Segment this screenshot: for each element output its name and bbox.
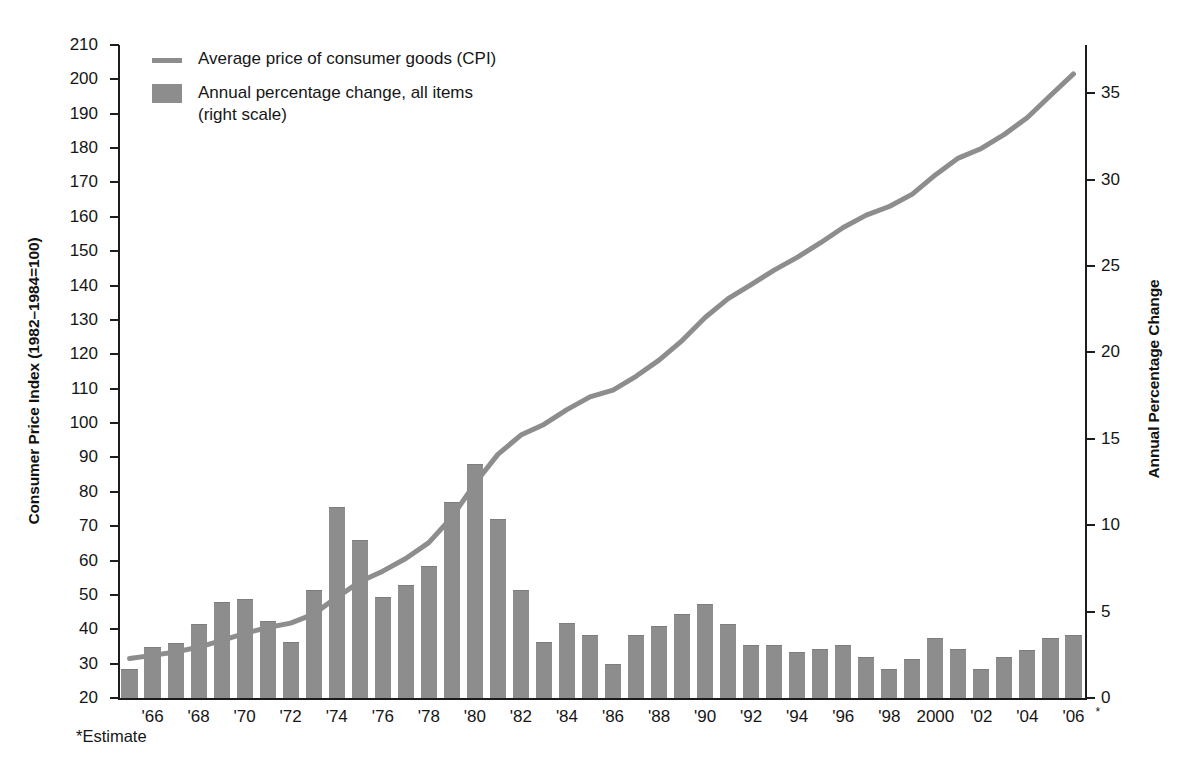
- right-tick-label: 5: [1101, 603, 1161, 620]
- left-tick-label: 60: [34, 552, 98, 569]
- right-tick-mark: [1086, 351, 1095, 353]
- left-tick-label: 50: [34, 586, 98, 603]
- right-tick-label: 0: [1101, 689, 1161, 706]
- right-tick-mark: [1086, 697, 1095, 699]
- left-tick-label: 190: [34, 105, 98, 122]
- right-axis-line: [1085, 45, 1087, 700]
- right-tick-mark: [1086, 179, 1095, 181]
- left-tick-label: 80: [34, 483, 98, 500]
- left-tick-label: 140: [34, 277, 98, 294]
- x-axis-line: [118, 698, 1087, 700]
- footnote: *Estimate: [76, 727, 147, 746]
- right-tick-mark: [1086, 438, 1095, 440]
- left-tick-label: 70: [34, 517, 98, 534]
- left-tick-label: 150: [34, 242, 98, 259]
- left-tick-label: 120: [34, 345, 98, 362]
- left-tick-label: 30: [34, 655, 98, 672]
- left-tick-label: 110: [34, 380, 98, 397]
- legend-item-cpi-line: Average price of consumer goods (CPI): [152, 48, 496, 70]
- estimate-asterisk: *: [1095, 705, 1100, 719]
- left-tick-label: 210: [34, 36, 98, 53]
- left-tick-label: 180: [34, 139, 98, 156]
- right-tick-label: 25: [1101, 257, 1161, 274]
- chart-legend: Average price of consumer goods (CPI) An…: [152, 48, 496, 138]
- line-swatch-icon: [152, 58, 182, 63]
- right-tick-label: 15: [1101, 430, 1161, 447]
- left-tick-label: 90: [34, 448, 98, 465]
- legend-line-swatch: [152, 48, 198, 70]
- right-tick-label: 20: [1101, 343, 1161, 360]
- legend-item-annual-change: Annual percentage change, all items (rig…: [152, 82, 496, 126]
- box-swatch-icon: [152, 84, 182, 103]
- chart-canvas: Consumer Price Index (1982–1984=100) Ann…: [0, 0, 1185, 773]
- left-tick-label: 20: [34, 689, 98, 706]
- left-tick-label: 130: [34, 311, 98, 328]
- legend-label-cpi: Average price of consumer goods (CPI): [198, 48, 496, 70]
- legend-label-annual-change-line2: (right scale): [198, 105, 287, 124]
- right-tick-mark: [1086, 92, 1095, 94]
- right-tick-label: 35: [1101, 84, 1161, 101]
- right-tick-mark: [1086, 265, 1095, 267]
- left-tick-label: 200: [34, 70, 98, 87]
- left-tick-label: 100: [34, 414, 98, 431]
- cpi-line-series: [118, 45, 1085, 698]
- right-tick-mark: [1086, 524, 1095, 526]
- plot-area: [118, 45, 1085, 698]
- legend-box-swatch: [152, 82, 198, 104]
- right-tick-mark: [1086, 611, 1095, 613]
- left-tick-label: 160: [34, 208, 98, 225]
- legend-label-annual-change-line1: Annual percentage change, all items: [198, 83, 473, 102]
- right-tick-label: 10: [1101, 516, 1161, 533]
- right-tick-label: 30: [1101, 171, 1161, 188]
- x-tick-label: '06: [1033, 708, 1113, 725]
- cpi-line-path: [130, 74, 1074, 659]
- left-tick-label: 170: [34, 173, 98, 190]
- left-tick-label: 40: [34, 620, 98, 637]
